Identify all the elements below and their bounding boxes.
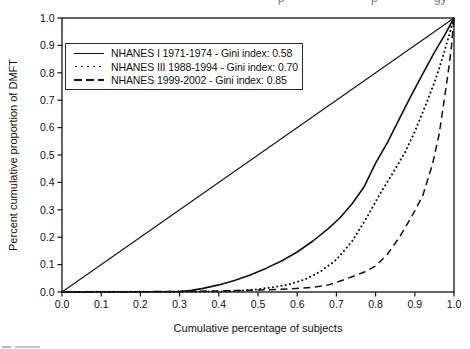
svg-text:0.1: 0.1 [94,298,109,310]
svg-text:0.0: 0.0 [55,298,70,310]
x-axis-title: Cumulative percentage of subjects [174,322,343,334]
svg-text:0.4: 0.4 [211,298,226,310]
cropped-caption-fragment [2,346,50,348]
svg-text:0.4: 0.4 [40,176,55,188]
svg-text:0.6: 0.6 [40,121,55,133]
legend-entry-nhanes1: NHANES I 1971-1974 - Gini index: 0.58 [74,47,298,59]
svg-text:0.5: 0.5 [251,298,266,310]
legend-label: NHANES 1999-2002 - Gini index: 0.85 [111,74,287,86]
x-ticks: 0.00.10.20.30.40.50.60.70.80.91.0 [55,292,462,310]
svg-text:0.3: 0.3 [172,298,187,310]
svg-text:0.7: 0.7 [329,298,344,310]
svg-text:1.0: 1.0 [40,12,55,24]
svg-text:1.0: 1.0 [447,298,462,310]
svg-text:0.7: 0.7 [40,94,55,106]
svg-text:0.8: 0.8 [40,67,55,79]
dotted-line-sample [74,65,104,68]
svg-text:0.5: 0.5 [40,149,55,161]
svg-text:0.8: 0.8 [368,298,383,310]
dashed-line-sample [74,79,104,81]
y-ticks: 0.00.10.20.30.40.50.60.70.80.91.0 [40,12,62,298]
legend-label: NHANES III 1988-1994 - Gini index: 0.70 [111,61,298,73]
svg-text:0.0: 0.0 [40,286,55,298]
legend-entry-nhanes3: NHANES III 1988-1994 - Gini index: 0.70 [74,61,298,73]
legend-label: NHANES I 1971-1974 - Gini index: 0.58 [111,47,292,59]
svg-text:0.2: 0.2 [40,231,55,243]
y-axis-title: Percent cumulative proportion of DMFT [7,59,19,251]
svg-text:0.6: 0.6 [290,298,305,310]
svg-text:0.3: 0.3 [40,204,55,216]
legend-entry-nhanes1999: NHANES 1999-2002 - Gini index: 0.85 [74,74,298,86]
legend-box: NHANES I 1971-1974 - Gini index: 0.58 NH… [65,43,303,90]
svg-text:0.1: 0.1 [40,258,55,270]
lorenz-curve-figure: p p gy 0.00.10.20.30.40.50.60.70.80.91.0… [0,0,470,349]
svg-text:0.2: 0.2 [133,298,148,310]
solid-line-sample [74,53,104,54]
svg-text:0.9: 0.9 [40,39,55,51]
svg-text:0.9: 0.9 [407,298,422,310]
